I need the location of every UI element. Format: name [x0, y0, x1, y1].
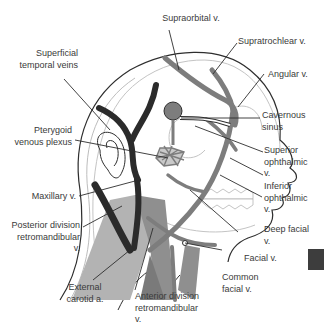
label-posterior-division-retromandibular: Posterior division retromandibular v.: [0, 220, 80, 255]
label-deep-facial-vein: Deep facial v.: [264, 224, 309, 247]
label-common-facial-vein: Common facial v.: [222, 272, 259, 295]
label-inferior-ophthalmic-vein: Inferior ophthalmic v.: [264, 181, 308, 216]
cavernous-sinus: [164, 102, 182, 120]
anatomy-diagram: Supraorbital v. Supratrochlear v. Angula…: [0, 0, 324, 330]
label-maxillary-vein: Maxillary v.: [0, 191, 76, 203]
label-cavernous-sinus: Cavernous sinus: [262, 110, 306, 133]
label-supratrochlear-vein: Supratrochlear v.: [238, 36, 306, 48]
label-angular-vein: Angular v.: [268, 69, 308, 81]
label-facial-vein: Facial v.: [244, 253, 277, 265]
pterygoid-plexus: [156, 146, 184, 166]
label-supraorbital-vein: Supraorbital v.: [146, 13, 236, 25]
label-superior-ophthalmic-vein: Superior ophthalmic v.: [264, 145, 308, 180]
label-external-carotid-artery: External carotid a.: [45, 282, 125, 305]
label-anterior-division-retromandibular: Anterior division retromandibular v.: [135, 291, 199, 326]
label-superficial-temporal-veins: Superficial temporal veins: [0, 48, 78, 71]
page-edge-tab: [308, 249, 324, 270]
label-pterygoid-venous-plexus: Pterygoid venous plexus: [0, 125, 72, 148]
